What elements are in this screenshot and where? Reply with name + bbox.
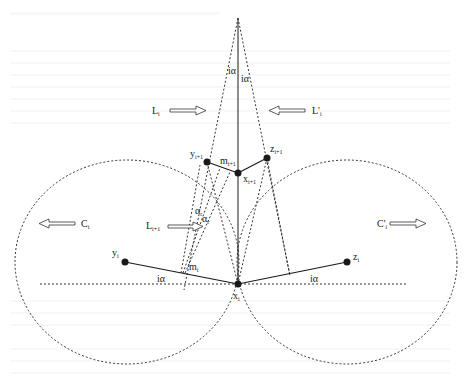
point-x-i1: [235, 170, 242, 177]
angle-label-top-left: iα: [228, 65, 237, 76]
arrow-right-icon: [390, 219, 426, 228]
segment-yi-xi: [125, 262, 238, 284]
label-y-i1: yi+1: [190, 148, 203, 160]
label-y-i: yi: [112, 247, 119, 259]
label-C-prime-i: C'i: [377, 218, 387, 230]
cross-dashed-1: [207, 162, 238, 284]
label-m-i: mi: [189, 261, 199, 273]
point-x-i: [235, 281, 242, 288]
point-z-i: [344, 259, 351, 266]
label-C-i: Ci: [81, 218, 90, 230]
alpha-r-label-2: αr: [202, 213, 209, 225]
segment-zi-xi: [238, 262, 347, 284]
segment-zi1-xi1: [238, 158, 267, 173]
angle-label-top-right: iα: [241, 73, 250, 84]
label-z-i: zi: [353, 251, 359, 263]
label-L-prime-i: L'i: [312, 105, 322, 117]
arrow-left-icon: [269, 106, 305, 115]
label-z-i1: zi+1: [270, 143, 283, 155]
construction-diagram: Li L'i Li+1 Ci C'i iα iα iα iα αr αr yi …: [0, 0, 466, 380]
label-L-i1: Li+1: [146, 220, 160, 232]
arrow-left-icon: [39, 219, 75, 228]
label-L-i: Li: [152, 105, 160, 117]
point-y-i: [122, 259, 129, 266]
label-m-i1: mi+1: [220, 155, 236, 167]
angle-label-bottom-left: iα: [157, 273, 166, 284]
diagram-canvas: Li L'i Li+1 Ci C'i iα iα iα iα αr αr yi …: [0, 0, 466, 380]
point-z-i1: [264, 155, 271, 162]
angle-label-bottom-right: iα: [310, 273, 319, 284]
label-x-i1: xi+1: [243, 173, 256, 185]
alpha-line-1: [181, 165, 200, 273]
arrow-right-icon: [170, 106, 206, 115]
label-x-i: xi: [233, 290, 240, 302]
point-y-i1: [204, 159, 211, 166]
